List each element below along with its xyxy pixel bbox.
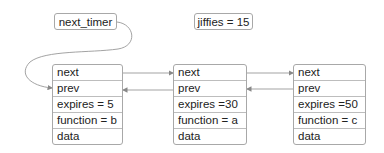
field-next: next [294,65,365,81]
timer-node-2: next prev expires =30 function = a data [173,64,247,145]
field-function: function = c [294,113,365,129]
field-data: data [174,129,246,146]
field-next: next [53,65,122,81]
field-expires: expires = 5 [53,97,122,113]
field-next: next [174,65,246,81]
field-expires: expires =50 [294,97,365,113]
next-timer-label: next_timer [54,13,117,30]
field-data: data [294,129,365,146]
field-prev: prev [294,81,365,97]
field-prev: prev [53,81,122,97]
field-data: data [53,129,122,146]
field-function: function = b [53,113,122,129]
jiffies-label: jiffies = 15 [194,13,253,30]
timer-node-1: next prev expires = 5 function = b data [52,64,123,145]
field-function: function = a [174,113,246,129]
timer-node-3: next prev expires =50 function = c data [293,64,366,145]
field-prev: prev [174,81,246,97]
field-expires: expires =30 [174,97,246,113]
